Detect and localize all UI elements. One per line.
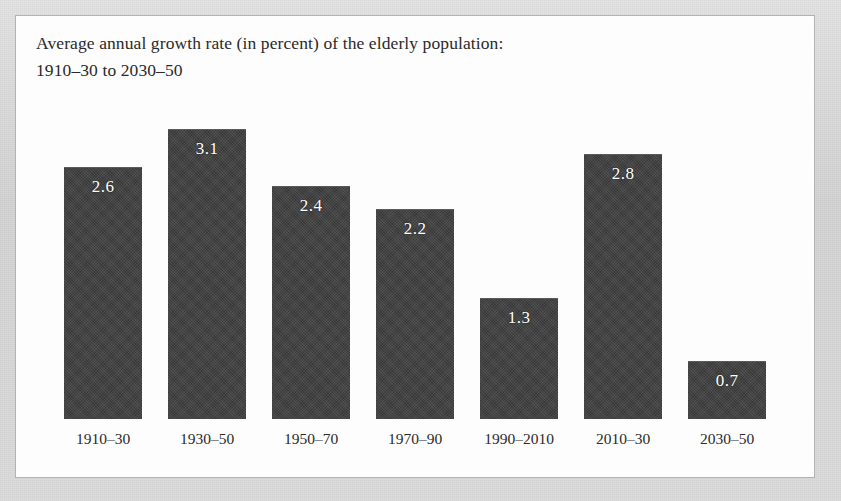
bar-value-label: 2.8 xyxy=(584,165,662,182)
bar: 2.6 xyxy=(64,167,142,419)
bar-value-label: 3.1 xyxy=(168,140,246,157)
figure-panel: Average annual growth rate (in percent) … xyxy=(15,15,815,478)
x-axis-category-label: 1970–90 xyxy=(360,431,470,447)
bar: 2.2 xyxy=(376,209,454,419)
x-axis-category-label: 2010–30 xyxy=(568,431,678,447)
x-axis-category-label: 1910–30 xyxy=(48,431,158,447)
bar: 3.1 xyxy=(168,129,246,419)
x-axis-category-label: 1930–50 xyxy=(152,431,262,447)
bar-value-label: 1.3 xyxy=(480,309,558,326)
bar-value-label: 2.4 xyxy=(272,197,350,214)
bar-value-label: 2.6 xyxy=(64,178,142,195)
bar-chart-plot-area: 2.61910–303.11930–502.41950–702.21970–90… xyxy=(16,16,815,478)
bar: 1.3 xyxy=(480,298,558,419)
bar: 0.7 xyxy=(688,361,766,419)
bar: 2.8 xyxy=(584,154,662,419)
x-axis-category-label: 1990–2010 xyxy=(464,431,574,447)
bar-value-label: 2.2 xyxy=(376,220,454,237)
x-axis-category-label: 2030–50 xyxy=(672,431,782,447)
bar: 2.4 xyxy=(272,186,350,419)
figure-frame: Average annual growth rate (in percent) … xyxy=(0,0,841,501)
bar-value-label: 0.7 xyxy=(688,372,766,389)
x-axis-category-label: 1950–70 xyxy=(256,431,366,447)
